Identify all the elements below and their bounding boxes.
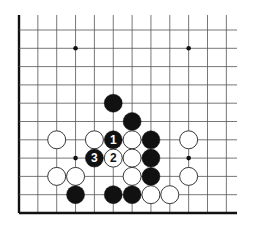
- black-stone: [123, 186, 141, 204]
- white-stone: [123, 149, 141, 167]
- stone-disc: [123, 186, 141, 204]
- stone-disc: [123, 149, 141, 167]
- go-board: 132: [0, 0, 256, 226]
- stone-disc: [48, 131, 66, 149]
- stone-disc: [142, 186, 160, 204]
- move-number-label: 3: [91, 151, 98, 165]
- white-stone: [142, 186, 160, 204]
- stone-disc: [104, 186, 122, 204]
- black-stone: [67, 186, 85, 204]
- stone-disc: [180, 167, 198, 185]
- star-point: [186, 156, 191, 161]
- move-number-label: 2: [110, 151, 117, 165]
- star-point: [73, 46, 78, 51]
- black-stone: [123, 113, 141, 131]
- white-stone: [48, 167, 66, 185]
- stone-disc: [142, 167, 160, 185]
- stone-disc: [67, 167, 85, 185]
- stone-disc: [142, 131, 160, 149]
- stone-disc: [123, 113, 141, 131]
- white-stone: [180, 131, 198, 149]
- white-stone: [123, 167, 141, 185]
- black-stone: [142, 149, 160, 167]
- white-stone: [67, 167, 85, 185]
- move-number-label: 1: [110, 133, 117, 147]
- star-point: [186, 46, 191, 51]
- black-stone: [142, 131, 160, 149]
- white-stone: [161, 186, 179, 204]
- white-stone: [123, 131, 141, 149]
- star-point: [73, 156, 78, 161]
- white-stone: [85, 131, 103, 149]
- black-stone: [104, 94, 122, 112]
- go-board-diagram: 132: [0, 0, 256, 226]
- white-stone: [48, 131, 66, 149]
- black-stone: [142, 167, 160, 185]
- stone-disc: [142, 149, 160, 167]
- black-stone: 3: [85, 149, 103, 167]
- stone-disc: [104, 94, 122, 112]
- stone-disc: [123, 131, 141, 149]
- white-stone: [180, 167, 198, 185]
- stone-disc: [161, 186, 179, 204]
- stone-disc: [48, 167, 66, 185]
- black-stone: [104, 186, 122, 204]
- white-stone: 2: [104, 149, 122, 167]
- stone-disc: [180, 131, 198, 149]
- stone-disc: [85, 131, 103, 149]
- black-stone: 1: [104, 131, 122, 149]
- stone-disc: [67, 186, 85, 204]
- stone-disc: [123, 167, 141, 185]
